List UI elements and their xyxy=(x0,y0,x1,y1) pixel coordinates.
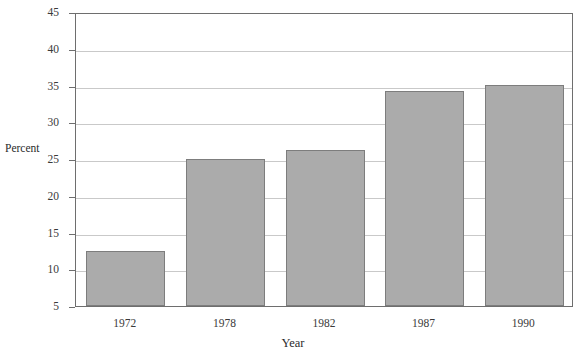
x-tick-label: 1978 xyxy=(184,318,264,330)
y-axis-title: Percent xyxy=(5,143,39,155)
y-tick-label: 30 xyxy=(19,117,59,129)
y-tick-label: 10 xyxy=(19,264,59,276)
bar xyxy=(186,159,265,306)
y-tick-label: 40 xyxy=(19,44,59,56)
x-tick-label: 1987 xyxy=(384,318,464,330)
bar xyxy=(286,150,365,306)
gridline xyxy=(76,51,572,52)
x-tick-label: 1982 xyxy=(284,318,364,330)
y-tick-label: 45 xyxy=(19,7,59,19)
y-tick-label: 15 xyxy=(19,228,59,240)
x-tick-label: 1972 xyxy=(85,318,165,330)
bar-chart: Percent 51015202530354045 19721978198219… xyxy=(0,0,586,353)
x-axis-title: Year xyxy=(0,337,586,350)
x-tick-label: 1990 xyxy=(483,318,563,330)
y-tick-label: 20 xyxy=(19,191,59,203)
y-tick-mark xyxy=(69,307,75,308)
plot-area xyxy=(75,13,573,307)
bar xyxy=(485,85,564,306)
y-tick-label: 35 xyxy=(19,81,59,93)
bar xyxy=(385,91,464,306)
bar xyxy=(86,251,165,306)
y-tick-label: 25 xyxy=(19,154,59,166)
y-tick-label: 5 xyxy=(19,301,59,313)
